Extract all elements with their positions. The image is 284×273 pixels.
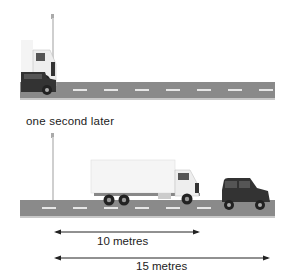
car-icon	[222, 178, 270, 210]
label-15-metres: 15 metres	[136, 260, 187, 272]
lamppost-icon	[51, 133, 54, 200]
truck-icon	[91, 160, 200, 206]
arrow-10-metres	[54, 230, 200, 235]
label-10-metres: 10 metres	[97, 235, 148, 247]
bottom-vehicles-svg	[0, 0, 284, 273]
